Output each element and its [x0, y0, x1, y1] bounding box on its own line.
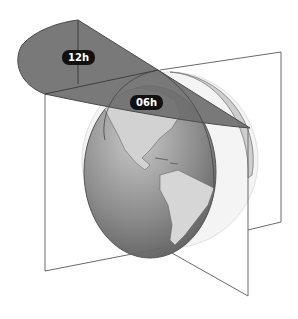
svg-text:06h: 06h — [136, 97, 157, 108]
svg-text:12h: 12h — [68, 52, 89, 63]
globe-diagram: 12h 06h — [0, 0, 298, 319]
label-06h: 06h — [130, 95, 163, 110]
label-12h: 12h — [62, 50, 95, 65]
